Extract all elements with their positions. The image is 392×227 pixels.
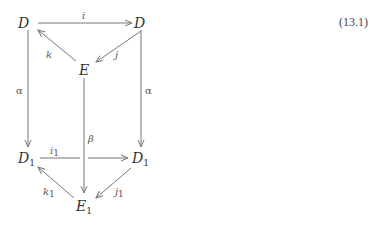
label-k: k bbox=[46, 49, 52, 60]
node-D1-right: D1 bbox=[131, 150, 149, 168]
label-k1: k1 bbox=[43, 186, 55, 199]
node-D-top-right: D bbox=[133, 15, 145, 31]
arrow-j1 bbox=[96, 168, 131, 198]
label-alpha-left: α bbox=[16, 85, 23, 96]
arrow-j bbox=[96, 31, 141, 62]
node-D-top-left: D bbox=[17, 15, 29, 31]
label-alpha-right: α bbox=[145, 85, 152, 96]
label-j1: j1 bbox=[113, 186, 124, 199]
equation-number: (13.1) bbox=[339, 15, 368, 30]
arrow-k bbox=[38, 30, 76, 61]
node-D1-left: D1 bbox=[17, 150, 35, 168]
label-j: j bbox=[113, 49, 118, 60]
node-E1: E1 bbox=[75, 198, 92, 216]
label-i: i bbox=[82, 10, 85, 21]
label-beta: β bbox=[87, 133, 94, 144]
label-i1: i1 bbox=[50, 145, 59, 158]
node-E: E bbox=[78, 62, 89, 78]
commutative-diagram: D D E D1 D1 E1 i j k α α β i1 j1 k1 bbox=[0, 0, 392, 227]
